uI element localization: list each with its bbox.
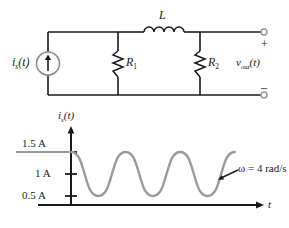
terminal-positive-icon bbox=[261, 29, 267, 35]
polarity-minus: – bbox=[261, 81, 267, 93]
circuit-group bbox=[48, 27, 261, 95]
output-voltage-label: vout(t) bbox=[236, 57, 260, 71]
plot-tick-label-1: 1 A bbox=[35, 168, 51, 179]
plot-x-axis-label: t bbox=[268, 199, 271, 210]
plot-y-axis-label: is(t) bbox=[58, 110, 74, 124]
inductor-coil bbox=[144, 27, 184, 32]
resistor1-label: R1 bbox=[126, 56, 137, 71]
plot-tick-label-1p5: 1.5 A bbox=[22, 138, 46, 149]
resistor-r2-zigzag bbox=[195, 51, 205, 77]
figure-container: is(t) L R1 R2 + – vout(t) is(t) t 1.5 A … bbox=[0, 0, 289, 228]
omega-annotation: ω = 4 rad/s bbox=[238, 163, 287, 174]
polarity-plus: + bbox=[261, 38, 268, 50]
waveform-curve bbox=[71, 152, 235, 196]
plot-group bbox=[16, 126, 264, 209]
plot-y-axis-arrowhead bbox=[68, 126, 75, 134]
inductor-label: L bbox=[159, 9, 166, 21]
plot-tick-label-0p5: 0.5 A bbox=[22, 190, 46, 201]
resistor2-label: R2 bbox=[208, 56, 219, 71]
plot-x-axis-arrowhead bbox=[256, 201, 264, 208]
source-label: is(t) bbox=[12, 56, 30, 71]
resistor-r1-zigzag bbox=[113, 51, 123, 77]
